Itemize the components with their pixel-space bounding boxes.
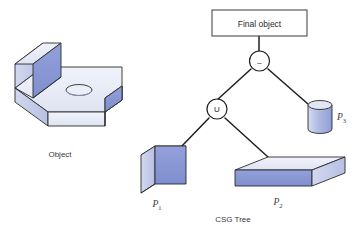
p3-cylinder-top: [308, 101, 332, 110]
union-node-symbol: U: [214, 105, 220, 114]
csg-tree-figure: Object Final object – U: [0, 0, 352, 237]
p1-label: P1: [151, 199, 161, 211]
edge-subtract-to-p3: [268, 69, 308, 104]
primitive-p2-graphic: P2: [235, 157, 345, 209]
object-caption: Object: [48, 150, 72, 159]
p2-front-face: [235, 170, 312, 186]
p1-label-subscript: 1: [158, 204, 161, 211]
p3-label-subscript: 3: [343, 117, 346, 124]
object-base-front: [48, 112, 105, 126]
csg-tree-caption: CSG Tree: [215, 215, 251, 224]
p1-front-face: [155, 146, 186, 184]
diagram-canvas: Object Final object – U: [0, 0, 352, 237]
edge-union-to-p1: [180, 118, 209, 148]
p1-left-face: [141, 146, 155, 193]
primitive-p3-graphic: P3: [308, 101, 346, 134]
p2-label: P2: [272, 197, 282, 209]
tree-edges: [180, 36, 308, 157]
final-object-label: Final object: [238, 19, 282, 29]
union-node[interactable]: U: [207, 99, 227, 119]
edge-subtract-to-union: [217, 69, 251, 100]
primitive-p1-graphic: P1: [141, 146, 186, 211]
difference-node[interactable]: –: [250, 51, 270, 71]
difference-node-symbol: –: [257, 58, 262, 67]
p3-label: P3: [336, 112, 346, 124]
p2-label-subscript: 2: [279, 202, 282, 209]
result-object-graphic: Object: [15, 43, 122, 159]
edge-union-to-p2: [225, 118, 268, 157]
final-object-box[interactable]: Final object: [212, 10, 307, 36]
